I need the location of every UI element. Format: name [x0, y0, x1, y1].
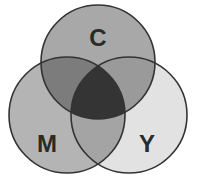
label-m: M	[37, 130, 57, 157]
label-y: Y	[139, 130, 155, 157]
venn-diagram: C M Y	[0, 0, 197, 179]
label-c: C	[89, 24, 106, 51]
